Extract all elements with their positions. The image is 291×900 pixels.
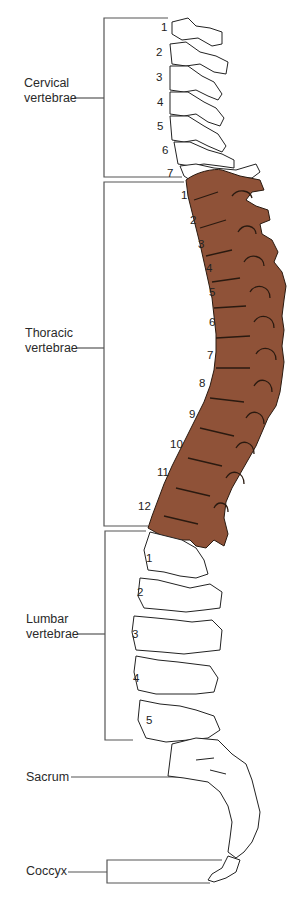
svg-text:5: 5 xyxy=(146,714,152,726)
svg-text:1: 1 xyxy=(181,189,187,201)
svg-text:10: 10 xyxy=(170,438,183,450)
svg-text:2: 2 xyxy=(190,214,196,226)
svg-text:3: 3 xyxy=(132,628,138,640)
svg-text:4: 4 xyxy=(157,96,164,108)
svg-text:7: 7 xyxy=(207,349,213,361)
sacrum-label: Sacrum xyxy=(26,770,69,785)
svg-text:7: 7 xyxy=(167,167,173,179)
svg-text:3: 3 xyxy=(156,71,162,83)
svg-text:2: 2 xyxy=(137,586,143,598)
svg-text:1: 1 xyxy=(161,21,167,33)
lumbar-label-line1: Lumbar xyxy=(26,612,79,627)
coccyx-bracket xyxy=(68,860,222,883)
thoracic-vertebrae xyxy=(148,169,286,548)
thoracic-label-line2: vertebrae xyxy=(25,341,78,356)
svg-text:5: 5 xyxy=(209,286,215,298)
thoracic-label: Thoracic vertebrae xyxy=(25,326,78,356)
svg-text:12: 12 xyxy=(138,500,151,512)
lumbar-label-line2: vertebrae xyxy=(26,627,79,642)
cervical-label-line1: Cervical xyxy=(24,76,77,91)
svg-text:4: 4 xyxy=(206,262,213,274)
cervical-vertebrae xyxy=(170,18,260,180)
svg-text:2: 2 xyxy=(156,46,162,58)
lumbar-label: Lumbar vertebrae xyxy=(26,612,79,642)
cervical-label: Cervical vertebrae xyxy=(24,76,77,106)
coccyx-label: Coccyx xyxy=(26,864,67,879)
sacrum xyxy=(168,738,260,858)
svg-text:5: 5 xyxy=(157,120,163,132)
svg-text:1: 1 xyxy=(146,552,152,564)
spine-diagram: 1 2 3 4 5 6 7 1 2 3 4 5 6 7 8 9 10 11 12… xyxy=(0,0,291,900)
svg-text:8: 8 xyxy=(199,377,205,389)
svg-text:4: 4 xyxy=(133,672,140,684)
cervical-label-line2: vertebrae xyxy=(24,91,77,106)
coccyx-label-line1: Coccyx xyxy=(26,864,67,879)
svg-text:3: 3 xyxy=(198,238,204,250)
svg-text:6: 6 xyxy=(162,144,168,156)
svg-text:6: 6 xyxy=(209,316,215,328)
sacrum-label-line1: Sacrum xyxy=(26,770,69,785)
svg-text:11: 11 xyxy=(157,466,169,478)
thoracic-label-line1: Thoracic xyxy=(25,326,78,341)
svg-text:9: 9 xyxy=(189,408,195,420)
